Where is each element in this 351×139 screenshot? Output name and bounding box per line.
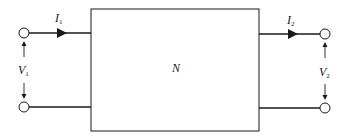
current-label-i2: I2 [286, 13, 295, 28]
two-port-diagram: N I1 V1 I2 V2 [0, 0, 351, 139]
port1-bottom-terminal [19, 102, 29, 112]
v2-down-arrow-icon [323, 95, 328, 100]
v2-up-arrow-icon [323, 42, 328, 47]
voltage-label-v2: V2 [319, 65, 330, 80]
port2-top-terminal [320, 29, 330, 39]
network-label: N [171, 61, 181, 75]
v1-up-arrow-icon [22, 41, 27, 46]
v1-down-arrow-icon [22, 94, 27, 99]
current-label-i1: I1 [54, 11, 63, 26]
voltage-label-v1: V1 [18, 63, 29, 78]
port2-bottom-terminal [320, 103, 330, 113]
current-arrow-i2-icon [288, 29, 298, 39]
current-arrow-i1-icon [57, 28, 67, 38]
port1-top-terminal [19, 28, 29, 38]
